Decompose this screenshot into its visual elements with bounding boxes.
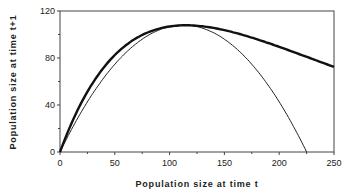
x-tick-label: 50 xyxy=(110,158,120,168)
series-thick-curve xyxy=(60,25,334,152)
x-tick-label: 150 xyxy=(217,158,232,168)
y-axis-label: Population size at time t+1 xyxy=(8,15,18,150)
y-tick-label: 40 xyxy=(45,100,55,110)
y-tick-label: 120 xyxy=(40,6,55,16)
x-axis-label: Population size at time t xyxy=(135,179,258,189)
x-tick-label: 0 xyxy=(57,158,62,168)
y-tick-label: 0 xyxy=(50,147,55,157)
y-axis: 04080120 xyxy=(40,6,60,157)
chart: 04080120 050100150200250 Population size… xyxy=(0,0,352,194)
x-tick-label: 250 xyxy=(326,158,341,168)
x-axis: 050100150200250 xyxy=(57,152,341,168)
y-tick-label: 80 xyxy=(45,53,55,63)
x-tick-label: 200 xyxy=(272,158,287,168)
x-tick-label: 100 xyxy=(162,158,177,168)
